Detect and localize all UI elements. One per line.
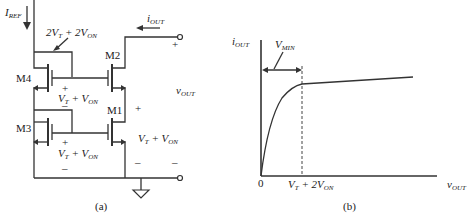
m2-label: M2 [105, 49, 120, 61]
caption-a: (a) [95, 200, 108, 213]
circuit-a: IREF 2VT + 2VON M4 + VT + VON – M2 iO [4, 0, 196, 213]
iref-arrow-icon [23, 22, 31, 30]
output-terminal-bottom [178, 176, 183, 181]
wire [34, 52, 48, 68]
wire [34, 88, 48, 110]
iref-label: IREF [4, 6, 22, 20]
plus-sign: + [135, 102, 141, 114]
m1-label: M1 [107, 104, 122, 116]
iout-arrow-icon [136, 25, 143, 31]
plot-b: iOUT vOUT 0 VT + 2VON VMIN (b) [232, 35, 467, 213]
m1-vds-label: VT + VON [138, 132, 178, 146]
x-axis-label: vOUT [447, 178, 467, 192]
m3-label: M3 [16, 122, 32, 134]
minus-sign: – [171, 156, 178, 168]
wire [34, 52, 72, 77]
cascode-current-mirror-figure: IREF 2VT + 2VON M4 + VT + VON – M2 iO [0, 0, 469, 214]
arrow-right-icon [296, 67, 302, 73]
top-voltage-label: 2VT + 2VON [46, 26, 97, 40]
minus-sign: – [61, 162, 68, 174]
arrow-left-icon [262, 67, 268, 73]
wire [112, 142, 125, 178]
iout-label: iOUT [147, 12, 165, 26]
iout-curve [261, 77, 413, 176]
vmin-pointer [274, 52, 283, 69]
plus-sign: + [172, 38, 178, 50]
vout-label: vOUT [176, 84, 196, 98]
minus-sign: – [134, 156, 141, 168]
minus-sign: – [61, 99, 68, 111]
output-terminal-top [178, 35, 183, 40]
m4-label: M4 [16, 72, 32, 84]
vmin-label: VMIN [275, 38, 295, 52]
y-axis-label: iOUT [232, 35, 250, 49]
m3-vgs-label: VT + VON [58, 147, 98, 161]
ground-icon [133, 190, 149, 198]
wire [112, 37, 178, 68]
caption-b: (b) [343, 200, 356, 213]
origin-label: 0 [258, 177, 264, 189]
x-tick-label: VT + 2VON [288, 178, 334, 192]
